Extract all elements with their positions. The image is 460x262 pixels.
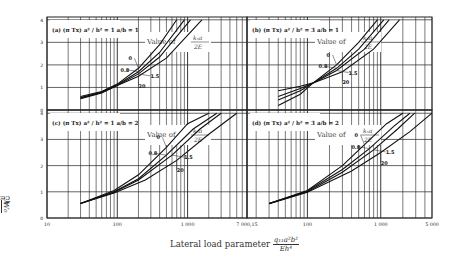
x-tick-label: 100	[303, 222, 312, 227]
series-key-label: 0.8	[319, 63, 328, 69]
x-axis-label-words: Lateral load parameter	[170, 239, 270, 249]
legend-frac-den: 2E	[193, 136, 203, 143]
chart-plot-area: (a) (π Tx) a² / h² = 1 a/b = 1Value ofkₓ…	[0, 0, 460, 262]
y-tick-label: 1	[40, 190, 43, 195]
series-key-label: 20	[342, 79, 349, 85]
legend-frac-den: 2E	[193, 43, 203, 50]
series-leader-line	[134, 58, 138, 68]
series-leader-line	[333, 55, 337, 65]
series-key-label: 1.5	[184, 154, 193, 160]
legend-title: Value of	[316, 38, 347, 46]
y-tick-label: 0	[40, 216, 43, 221]
panel-d: (d) (π Tx) a² / h² = 3 a/b = 2Value ofkₓ…	[247, 110, 432, 218]
series-key-label: 0	[128, 55, 132, 61]
x-tick-label: 10	[44, 222, 50, 227]
y-tick-label: 4	[40, 18, 43, 23]
series-key-label: 0	[156, 134, 160, 140]
series-key-label: 20	[138, 83, 145, 89]
y-axis-label: center deflection W₀ h	[8, 95, 28, 205]
x-tick-label: 1 000	[374, 222, 388, 227]
legend-frac-num: kₓa	[193, 34, 203, 41]
series-key-label: 0.8	[148, 150, 157, 156]
series-key-label: 20	[177, 167, 184, 173]
x-axis-frac-den: Eh⁴	[273, 245, 299, 253]
y-tick-label: 2	[40, 63, 43, 68]
y-tick-label: 4	[40, 111, 43, 116]
legend-title: Value of	[316, 131, 347, 139]
y-tick-label: 1	[40, 85, 43, 90]
x-tick-label: 100	[113, 222, 122, 227]
panel-label: (a) (π Tx) a² / h² = 1 a/b = 1	[52, 27, 139, 33]
series-key-label: 20	[381, 160, 388, 166]
panel-c: (c) (π Tx) a² / h² = 1 a/b = 2Value ofkₓ…	[40, 110, 247, 221]
x-axis-fraction: q₁₁a²b² Eh⁴	[273, 236, 299, 253]
y-tick-label: 3	[40, 137, 43, 142]
x-tick-label: 5 000	[425, 222, 439, 227]
panel-b: (b) (π Tx) a² / h² = 3 a/b = 1Value ofkₓ…	[247, 17, 432, 110]
y-tick-label: 2	[40, 164, 43, 169]
series-key-label: 0	[354, 132, 358, 138]
series-key-label: 0.8	[120, 67, 129, 73]
legend-frac-num: kₓa	[363, 127, 373, 134]
x-axis-frac-num: q₁₁a²b²	[273, 236, 299, 245]
x-axis-label: Lateral load parameter q₁₁a²b² Eh⁴	[170, 236, 299, 253]
series-key-label: 1.5	[349, 70, 358, 76]
panel-a: (a) (π Tx) a² / h² = 1 a/b = 1Value ofkₓ…	[40, 17, 247, 113]
x-tick-label: 1 000	[181, 222, 195, 227]
series-key-label: 0.8	[351, 144, 360, 150]
y-tick-label: 3	[40, 40, 43, 45]
y-axis-frac-den: h	[2, 200, 10, 205]
y-axis-label-text: center deflection W₀ h	[10, 200, 19, 203]
series-key-label: 1.5	[150, 73, 159, 79]
series-key-label: 0	[327, 52, 331, 58]
chart-figure: (a) (π Tx) a² / h² = 1 a/b = 1Value ofkₓ…	[0, 0, 460, 262]
series-key-label: 1.5	[386, 149, 395, 155]
legend-title: Value of	[146, 131, 177, 139]
x-tick-label: 7 000,15	[236, 222, 257, 227]
panel-label: (c) (π Tx) a² / h² = 1 a/b = 2	[52, 120, 139, 126]
